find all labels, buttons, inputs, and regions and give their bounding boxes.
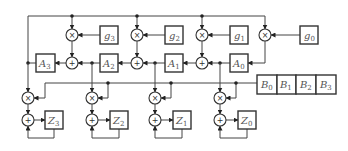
z2-box: Z2 bbox=[110, 111, 128, 129]
svg-text:×: × bbox=[199, 31, 206, 40]
g3-box: g3 bbox=[100, 26, 118, 44]
bottom-adder-3: + bbox=[22, 114, 34, 126]
bottom-multiplier-0: × bbox=[214, 92, 226, 104]
svg-text:×: × bbox=[262, 31, 269, 40]
multiplier-g2: × bbox=[131, 29, 143, 41]
bottom-multiplier-3: × bbox=[22, 92, 34, 104]
bottom-multiplier-1: × bbox=[149, 92, 161, 104]
svg-text:×: × bbox=[69, 31, 76, 40]
svg-text:×: × bbox=[152, 94, 159, 103]
svg-text:+: + bbox=[89, 116, 96, 125]
adder-a0: + bbox=[196, 57, 208, 69]
multiplier-g1: × bbox=[196, 29, 208, 41]
z1-box: Z1 bbox=[173, 111, 191, 129]
bottom-adder-0: + bbox=[214, 114, 226, 126]
svg-text:×: × bbox=[89, 94, 96, 103]
b-register: B0 B1 B2 B3 bbox=[257, 75, 336, 94]
a2-box: A2 bbox=[100, 54, 118, 72]
svg-text:+: + bbox=[199, 59, 206, 68]
g0-box: g0 bbox=[300, 26, 318, 44]
lfsr-multiplier-diagram: × × × × g3 g2 g1 g0 + + + bbox=[0, 0, 348, 151]
z3-box: Z3 bbox=[45, 111, 63, 129]
multiplier-g3: × bbox=[66, 29, 78, 41]
svg-text:×: × bbox=[134, 31, 141, 40]
bottom-adder-1: + bbox=[149, 114, 161, 126]
g1-box: g1 bbox=[230, 26, 248, 44]
a0-box: A0 bbox=[230, 54, 248, 72]
g2-box: g2 bbox=[165, 26, 183, 44]
svg-text:+: + bbox=[152, 116, 159, 125]
bottom-multiplier-2: × bbox=[86, 92, 98, 104]
a-tap-wires bbox=[28, 63, 220, 92]
a3-box: A3 bbox=[36, 54, 55, 72]
svg-text:+: + bbox=[217, 116, 224, 125]
bottom-adder-2: + bbox=[86, 114, 98, 126]
adder-a1: + bbox=[131, 57, 143, 69]
z0-box: Z0 bbox=[238, 111, 256, 129]
svg-text:+: + bbox=[25, 116, 32, 125]
a1-box: A1 bbox=[165, 54, 183, 72]
svg-text:×: × bbox=[25, 94, 32, 103]
multiplier-g0: × bbox=[259, 29, 271, 41]
svg-text:×: × bbox=[217, 94, 224, 103]
adder-a2: + bbox=[66, 57, 78, 69]
svg-text:+: + bbox=[69, 59, 76, 68]
svg-text:+: + bbox=[134, 59, 141, 68]
